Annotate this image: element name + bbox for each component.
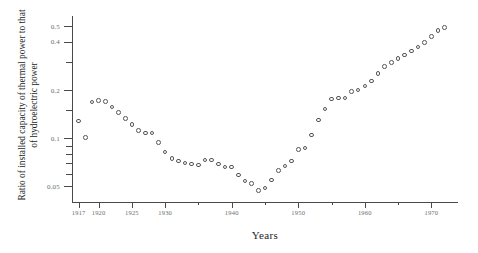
data-point (130, 122, 135, 127)
x-tick (99, 202, 100, 208)
data-point (83, 135, 88, 140)
data-point (229, 165, 234, 170)
data-point (90, 100, 95, 105)
data-point (316, 118, 321, 123)
x-tick (165, 202, 166, 208)
x-tick-label: 1917 (72, 209, 86, 216)
data-point (369, 79, 374, 84)
y-tick: 0.5 (64, 26, 72, 27)
data-point (376, 71, 381, 76)
data-point (123, 116, 128, 121)
y-tick: 0.4 (64, 42, 72, 43)
y-axis-title: Ratio of installed capacity of thermal p… (14, 5, 42, 205)
x-tick-label: 1960 (358, 209, 372, 216)
x-tick (79, 202, 80, 208)
x-tick-label: 1950 (291, 209, 305, 216)
data-point (249, 181, 254, 186)
data-point (143, 131, 148, 136)
data-point (176, 159, 181, 164)
data-point (116, 110, 121, 115)
data-point (136, 128, 141, 133)
data-point (336, 96, 341, 101)
data-point (209, 158, 214, 163)
data-point (349, 89, 354, 94)
data-point (436, 28, 441, 33)
y-tick: 0.05 (64, 186, 72, 187)
x-tick (398, 202, 399, 205)
data-point (110, 105, 115, 110)
data-point (256, 188, 261, 193)
x-tick (365, 202, 366, 208)
data-point (402, 53, 407, 58)
data-point (243, 179, 248, 184)
x-tick-label: 1930 (158, 209, 172, 216)
data-point (156, 140, 161, 145)
x-tick-label: 1940 (225, 209, 239, 216)
data-point (382, 64, 387, 69)
y-tick: 0.1 (64, 138, 72, 139)
data-point (103, 99, 108, 104)
plot-area: 0.050.10.20.40.5 19171920192519301940195… (72, 16, 458, 202)
data-point (236, 173, 241, 178)
y-tick-label: 0.1 (51, 135, 60, 143)
data-point (263, 186, 268, 191)
data-point (416, 45, 421, 50)
data-point (409, 49, 414, 54)
x-tick (198, 202, 199, 205)
data-point (223, 165, 228, 170)
data-point (323, 107, 328, 112)
data-point (422, 40, 427, 45)
data-point (183, 161, 188, 166)
x-tick (332, 202, 333, 205)
x-tick (232, 202, 233, 208)
data-point (276, 168, 281, 173)
data-point (429, 34, 434, 39)
x-tick-label: 1920 (92, 209, 106, 216)
data-point (76, 119, 81, 124)
data-point (289, 159, 294, 164)
y-tick-label: 0.5 (51, 23, 60, 31)
data-point (170, 156, 175, 161)
x-tick (265, 202, 266, 205)
y-tick-label: 0.2 (51, 87, 60, 95)
data-point (363, 84, 368, 89)
data-point (442, 25, 447, 30)
data-point (303, 146, 308, 151)
data-point (269, 178, 274, 183)
y-tick-label: 0.4 (51, 38, 60, 46)
data-point (309, 133, 314, 138)
y-tick: 0.2 (64, 90, 72, 91)
data-point (296, 147, 301, 152)
data-point (356, 88, 361, 93)
data-point (396, 56, 401, 61)
x-tick-label: 1925 (125, 209, 139, 216)
data-series-markers (72, 16, 458, 202)
x-axis-title: Years (72, 229, 458, 241)
data-point (163, 150, 168, 155)
data-point (216, 162, 221, 167)
x-tick (298, 202, 299, 208)
y-tick-label: 0.05 (47, 183, 60, 191)
data-point (343, 96, 348, 101)
x-tick (431, 202, 432, 208)
data-point (203, 158, 208, 163)
data-point (150, 131, 155, 136)
data-point (189, 162, 194, 167)
data-point (196, 163, 201, 168)
data-point (96, 98, 101, 103)
data-point (283, 164, 288, 169)
data-point (329, 97, 334, 102)
x-tick (132, 202, 133, 208)
x-tick-label: 1970 (424, 209, 438, 216)
data-point (389, 60, 394, 65)
chart-figure: Ratio of installed capacity of thermal p… (0, 0, 478, 253)
